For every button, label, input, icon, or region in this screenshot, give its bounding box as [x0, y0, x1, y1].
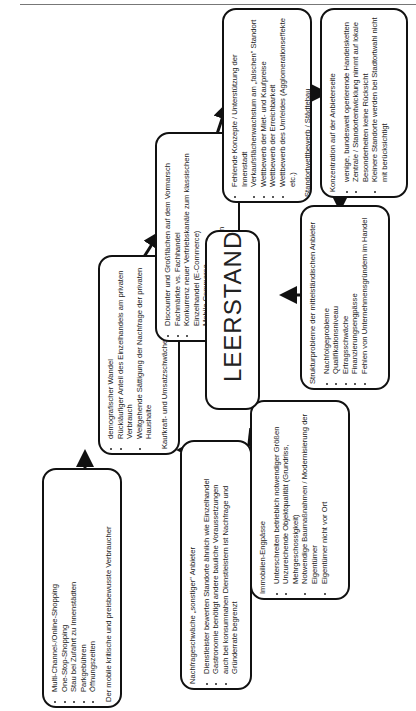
bullet: Verkaufsflächenwachstum am „falschen" St… [249, 17, 259, 187]
bullet: Wettbewerb der Erreichbarkeit [268, 17, 278, 187]
bullet: Qualifikationsniveau [331, 214, 341, 374]
bullet: Wettbewerb des Umfeldes (Agglomerationse… [278, 17, 297, 187]
bullet: Konkurrenz neuer Vertriebskanäle zum kla… [182, 141, 201, 326]
bullet: Zentrale / Standortentwicklung nimmt auf… [351, 17, 370, 182]
box-struktur: Strukturprobleme der mittelständischen A… [300, 205, 390, 390]
box-title: Standortwettbewerb / Städtebau [303, 17, 313, 197]
box-title: Nachfrageschwäche „sonstiger" Anbieter [188, 449, 198, 684]
bullet: One-Stop-Shopping [60, 477, 70, 692]
box-immobilien: Immobilien-Engpässe Unterschreiten betri… [250, 400, 350, 600]
bullet: Gastronomie benötigt andere bauliche Vor… [211, 449, 221, 674]
bullet: demografischer Wandel [106, 264, 116, 439]
bullet: Notwendige Baumaßnahmen / Modernisierung… [300, 409, 319, 584]
bullet: Rückläufiger Anteil des Einzelhandels am… [116, 264, 135, 439]
box-title: Strukturprobleme der mittelständischen A… [308, 214, 318, 384]
bullet: Fehlende Konzepte / Unterstützung der In… [230, 17, 249, 187]
bullet: wenige, bundesweit operierende Handelske… [342, 17, 352, 182]
bullet: Nachfolgeprobleme [322, 214, 332, 374]
box-sonstige: Nachfrageschwäche „sonstiger" Anbieter D… [180, 440, 252, 690]
center-leerstand: LEERSTAND [205, 230, 260, 410]
box-standort: Fehlende Konzepte / Unterstützung der In… [222, 8, 312, 203]
bullet: Fachmärkte vs. Fachhandel [173, 141, 183, 326]
bullet: Multi-Channel-/Online-Shopping [50, 477, 60, 692]
box-verbraucher: Multi-Channel-/Online-Shopping One-Stop-… [42, 468, 122, 708]
bullet: Unterschreiten betrieblich notwendiger G… [272, 409, 282, 584]
bullet: Ertragsschwäche [341, 214, 351, 374]
center-label: LEERSTAND [221, 252, 245, 382]
box-title: Der mobile kritische und preisbewusste V… [104, 477, 114, 702]
bullet: Finanzierungsengpässe [350, 214, 360, 374]
bullet: Weitgehende Sättigung der Nachfrage der … [135, 264, 154, 439]
bullet: Unzureichende Objektqualität (Grundriss,… [281, 409, 300, 584]
bullet: Discounter und Großflächen auf dem Vorma… [163, 141, 173, 326]
box-konzentration: Konzentration auf der Anbieterseite weni… [320, 8, 408, 198]
bullet: Eigentümer nicht vor Ort [320, 409, 330, 584]
bullet: Parkgebühren [79, 477, 89, 692]
bullet: Kleinere Standorte werden bei Stadtortwa… [370, 17, 389, 182]
bullet: Dienstleister bewerten Standorte ähnlich… [202, 449, 212, 674]
box-title: Immobilien-Engpässe [258, 409, 268, 594]
bullet: Wettbewerb der Miet- und Kaufpreise [259, 17, 269, 187]
bullet: Stau bei Zufahrt zu Innenstädten [69, 477, 79, 692]
box-title: Konzentration auf der Anbieterseite [328, 17, 338, 192]
bullet: Fehlen von Unternehmensgründern im Hande… [360, 214, 370, 374]
bullet: Öffnungszeiten [88, 477, 98, 692]
bullet: auch bei konsumnahen Dienstleistern ist … [221, 449, 240, 674]
